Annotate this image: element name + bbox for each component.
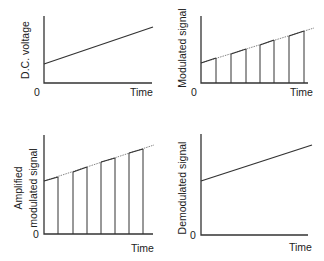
panel-demodulated: Demodulated signal 0 Time — [176, 134, 312, 253]
y-axis-label: D.C. voltage — [19, 21, 31, 79]
origin-label: 0 — [34, 86, 40, 98]
axes — [44, 135, 153, 234]
axes — [201, 134, 308, 235]
panel-modulated: Modulated signal 0 Time — [176, 8, 314, 98]
y-axis-label: Demodulated signal — [176, 142, 188, 235]
axes — [201, 16, 308, 83]
origin-label: 0 — [191, 86, 197, 98]
origin-label: 0 — [33, 228, 39, 240]
x-axis-label: Time — [131, 242, 154, 254]
panel-dc-voltage: D.C. voltage 0 Time — [19, 16, 153, 98]
y-axis-label-line1: Amplified — [12, 166, 24, 209]
axes — [44, 16, 152, 83]
diagram-canvas: D.C. voltage 0 Time Modulated signal 0 T… — [0, 0, 324, 261]
pulse-bars — [216, 31, 304, 83]
dc-voltage-line — [44, 27, 153, 64]
origin-label: 0 — [190, 229, 196, 241]
pulse-bars — [58, 149, 143, 234]
x-axis-label: Time — [130, 86, 153, 98]
y-axis-label-line2: modulated signal — [27, 148, 39, 227]
y-axis-label: Modulated signal — [176, 8, 188, 87]
demodulated-line — [201, 145, 312, 181]
x-axis-label: Time — [290, 86, 313, 98]
panel-amplified-modulated: Amplified modulated signal 0 Time — [12, 135, 154, 254]
x-axis-label: Time — [289, 241, 312, 253]
